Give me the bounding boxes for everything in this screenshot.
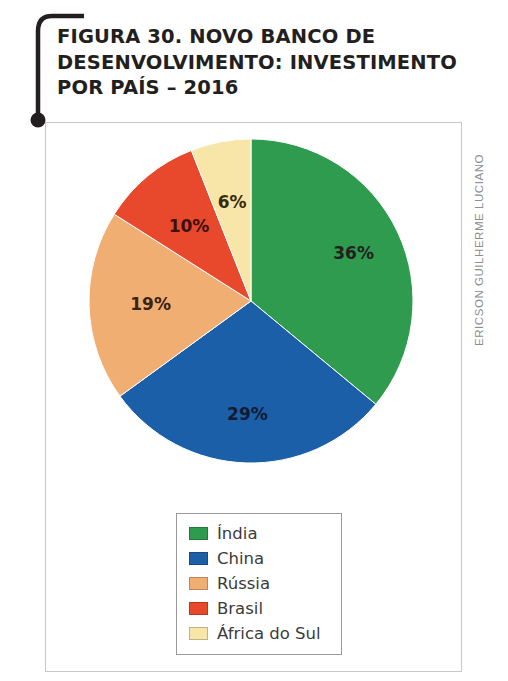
pie-slice-label: 19%	[130, 294, 171, 314]
chart-legend: Índia China Rússia Brasil África do Sul	[176, 513, 342, 655]
legend-item-label: China	[217, 549, 264, 568]
legend-item-label: Brasil	[217, 599, 263, 618]
legend-item-russia[interactable]: Rússia	[189, 571, 331, 596]
legend-swatch-icon	[189, 602, 208, 615]
legend-swatch-icon	[189, 527, 208, 540]
legend-item-label: África do Sul	[217, 624, 321, 643]
page-title: FIGURA 30. NOVO BANCO DE DESENVOLVIMENTO…	[57, 24, 457, 101]
pie-slice-label: 36%	[333, 243, 374, 263]
legend-swatch-icon	[189, 552, 208, 565]
legend-item-label: Rússia	[217, 574, 270, 593]
pie-chart: 36%29%19%10%6%	[86, 133, 416, 473]
legend-swatch-icon	[189, 577, 208, 590]
pie-slice-label: 6%	[218, 192, 247, 212]
image-credit: ERICSON GUILHERME LUCIANO	[473, 154, 489, 346]
figure-title-block: FIGURA 30. NOVO BANCO DE DESENVOLVIMENTO…	[57, 24, 457, 101]
legend-swatch-icon	[189, 627, 208, 640]
legend-item-china[interactable]: China	[189, 546, 331, 571]
legend-item-label: Índia	[217, 524, 258, 543]
legend-item-brasil[interactable]: Brasil	[189, 596, 331, 621]
legend-item-india[interactable]: Índia	[189, 521, 331, 546]
chart-frame: 36%29%19%10%6% Índia China Rússia Brasil…	[45, 122, 462, 672]
legend-item-africa-do-sul[interactable]: África do Sul	[189, 621, 331, 646]
pie-chart-svg: 36%29%19%10%6%	[86, 133, 416, 473]
pie-slice-label: 10%	[169, 216, 210, 236]
pie-slice-label: 29%	[227, 404, 268, 424]
